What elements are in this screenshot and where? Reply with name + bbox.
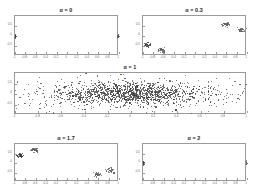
data-point [89,98,90,99]
data-point [229,78,230,79]
data-point [164,92,165,93]
data-point [242,92,243,93]
data-point [125,102,126,103]
data-point [208,111,209,112]
data-point [148,45,149,46]
data-point [197,91,198,92]
data-point [93,100,94,101]
data-point [16,108,17,109]
x-tick-label: -0.2 [53,56,58,59]
data-point [166,80,167,81]
data-point [108,102,109,103]
data-point [196,88,197,89]
data-point [56,87,57,88]
data-point [164,78,165,79]
data-point [45,101,46,102]
panel-title: α = 2 [142,135,246,141]
data-point [176,99,177,100]
data-point [106,170,107,171]
panel-title: α = 0.3 [142,7,246,13]
data-point [83,88,84,89]
data-point [146,85,147,86]
data-point [195,105,196,106]
data-point [211,91,212,92]
data-point [123,74,124,75]
data-point [86,101,87,102]
data-point [68,90,69,91]
data-point [86,104,87,105]
data-point [169,93,170,94]
x-tick-label: -0.8 [150,56,155,59]
data-point [111,104,112,105]
data-point [29,94,30,95]
data-point [128,98,129,99]
data-point [226,89,227,90]
data-point [185,94,186,95]
data-point [18,157,19,158]
data-point [201,91,202,92]
x-tick-label: -0.8 [150,182,155,185]
data-point [16,36,17,37]
data-point [37,91,38,92]
data-point [76,91,77,92]
x-tick-label: 0.6 [223,56,227,59]
data-point [95,96,96,97]
data-point [135,93,136,94]
x-tick-label: 1 [245,115,247,118]
y-tick-label: 0.5 [130,23,140,26]
data-point [148,97,149,98]
data-point [18,104,19,105]
data-point [103,91,104,92]
data-point [85,73,86,74]
data-point [98,101,99,102]
x-tick-label: -1 [13,115,16,118]
data-point [37,94,38,95]
data-point [92,94,93,95]
data-point [133,83,134,84]
data-point [69,97,70,98]
x-tick-label: 0.8 [233,182,237,185]
x-tick [57,52,58,54]
panel-alpha-0: α = 0 [14,7,118,55]
data-point [246,164,247,165]
data-point [195,94,196,95]
x-tick [195,52,196,54]
data-point [221,92,222,93]
data-point [172,93,173,94]
data-point [66,94,67,95]
data-point [29,99,30,100]
data-point [222,26,223,27]
data-point [54,97,55,98]
data-point [159,78,160,79]
data-point [166,102,167,103]
data-point [236,102,237,103]
data-point [160,99,161,100]
data-point [73,102,74,103]
data-point [149,45,150,46]
y-tick-label: -0.5 [2,43,12,46]
data-point [125,88,126,89]
data-point [79,100,80,101]
data-point [91,103,92,104]
data-point [40,83,41,84]
data-point [71,84,72,85]
data-point [44,107,45,108]
data-point [112,90,113,91]
data-point [155,106,156,107]
data-point [182,97,183,98]
x-tick-label: 0.2 [202,56,206,59]
x-tick-label: 0.4 [174,115,178,118]
data-point [240,95,241,96]
data-point [214,103,215,104]
data-point [32,99,33,100]
y-tick [15,84,17,85]
x-tick-label: -0.4 [43,56,48,59]
data-point [176,91,177,92]
data-point [137,103,138,104]
data-point [113,91,114,92]
data-point [86,97,87,98]
data-point [111,101,112,102]
data-point [65,101,66,102]
data-point [111,172,112,173]
x-tick-label: 1 [117,56,119,59]
